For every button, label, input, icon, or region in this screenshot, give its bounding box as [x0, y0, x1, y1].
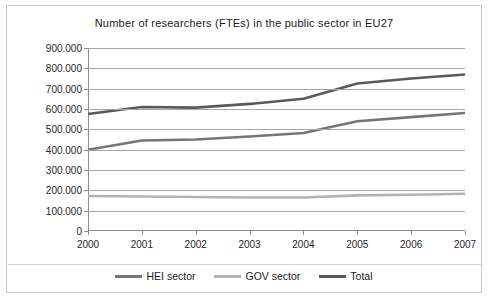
x-axis-tick-label: 2001 [131, 239, 153, 250]
gridline [88, 89, 465, 90]
series-line [88, 194, 465, 198]
y-axis-tick-label: 600.000 [46, 104, 82, 115]
y-axis-tick [84, 109, 88, 110]
legend-line-icon [115, 275, 142, 278]
y-axis-tick [84, 170, 88, 171]
y-axis-tick-label: 400.000 [46, 144, 82, 155]
gridline [88, 211, 465, 212]
plot-area [88, 48, 465, 231]
y-axis-tick [84, 129, 88, 130]
x-axis-tick-label: 2007 [454, 239, 476, 250]
x-axis-tick-label: 2004 [292, 239, 314, 250]
x-axis-tick [196, 231, 197, 235]
legend-line-icon [319, 275, 346, 278]
x-axis-tick-label: 2005 [346, 239, 368, 250]
y-axis-tick [84, 211, 88, 212]
series-layer [88, 48, 465, 231]
x-axis-tick [303, 231, 304, 235]
gridline [88, 170, 465, 171]
y-axis-tick-label: 800.000 [46, 63, 82, 74]
gridline [88, 129, 465, 130]
gridline [88, 48, 465, 49]
y-axis-tick-label: 900.000 [46, 43, 82, 54]
y-axis-tick [84, 150, 88, 151]
x-axis-tick-label: 2003 [238, 239, 260, 250]
y-axis-tick-label: 200.000 [46, 185, 82, 196]
chart-legend: HEI sectorGOV sectorTotal [7, 270, 481, 282]
series-line [88, 113, 465, 150]
y-axis-tick [84, 190, 88, 191]
y-axis-tick-label: 300.000 [46, 165, 82, 176]
plot-wrapper: 900.000800.000700.000600.000500.000400.0… [7, 6, 483, 294]
legend-label: GOV sector [245, 270, 300, 282]
x-axis-tick [465, 231, 466, 235]
y-axis-labels: 900.000800.000700.000600.000500.000400.0… [7, 48, 82, 231]
x-axis-labels: 20002001200220032004200520062007 [88, 239, 465, 255]
gridline [88, 68, 465, 69]
legend-label: HEI sector [146, 270, 195, 282]
gridline [88, 190, 465, 191]
x-axis-tick [357, 231, 358, 235]
y-axis-tick-label: 0 [76, 226, 82, 237]
y-axis-tick-label: 500.000 [46, 124, 82, 135]
y-axis-tick [84, 89, 88, 90]
y-axis-tick-label: 700.000 [46, 83, 82, 94]
x-axis-tick [411, 231, 412, 235]
y-axis-tick-label: 100.000 [46, 205, 82, 216]
x-axis-tick [88, 231, 89, 235]
x-axis-tick [142, 231, 143, 235]
x-axis-tick-label: 2006 [400, 239, 422, 250]
gridline [88, 150, 465, 151]
x-axis-tick [250, 231, 251, 235]
gridline [88, 109, 465, 110]
legend-separator [8, 264, 482, 265]
legend-line-icon [214, 275, 241, 278]
legend-label: Total [350, 270, 372, 282]
x-axis-tick-label: 2000 [77, 239, 99, 250]
legend-item[interactable]: HEI sector [115, 270, 195, 282]
legend-item[interactable]: GOV sector [214, 270, 300, 282]
chart-container: Number of researchers (FTEs) in the publ… [6, 5, 482, 293]
legend-item[interactable]: Total [319, 270, 372, 282]
y-axis-tick [84, 68, 88, 69]
x-axis-tick-label: 2002 [185, 239, 207, 250]
y-axis-tick [84, 48, 88, 49]
